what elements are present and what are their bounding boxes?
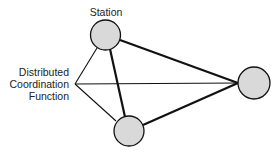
- station-node-right: [238, 67, 270, 99]
- edge-top-bottom: [110, 49, 125, 117]
- edge-top-right: [120, 40, 238, 83]
- dcf-edge-bottom: [75, 84, 116, 121]
- dcf-label-line2: Coordination: [9, 78, 69, 90]
- dcf-label-line3: Function: [29, 90, 69, 102]
- dcf-diagram: Station Distributed Coordination Functio…: [0, 0, 276, 154]
- station-label: Station: [90, 6, 123, 18]
- dcf-edge-top: [75, 48, 97, 84]
- edge-bottom-right: [143, 83, 238, 125]
- station-node-top: [91, 20, 121, 50]
- dcf-label-line1: Distributed: [19, 66, 69, 78]
- station-node-bottom: [114, 116, 144, 146]
- dcf-edge-right: [75, 83, 238, 84]
